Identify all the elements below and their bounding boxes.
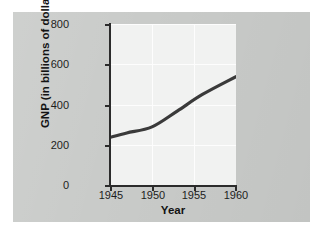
y-tick-label-0: 0	[35, 180, 69, 191]
y-tick-0	[105, 185, 109, 187]
figure-root: 800 600 400 200 0 1945 1950 1955 1960 GN…	[0, 0, 327, 238]
y-tick-label-200: 200	[35, 140, 69, 151]
x-axis-title: Year	[109, 204, 237, 216]
x-tick-label-1945: 1945	[91, 190, 131, 201]
gnp-series-line	[110, 24, 236, 186]
x-tick-label-1950: 1950	[133, 190, 173, 201]
x-tick-label-1960: 1960	[216, 190, 256, 201]
y-axis-line	[109, 23, 111, 187]
plot-area	[110, 24, 236, 186]
y-tick-800	[105, 24, 109, 26]
y-tick-600	[105, 64, 109, 66]
y-tick-200	[105, 145, 109, 147]
x-axis-line	[109, 185, 237, 187]
x-tick-label-1955: 1955	[174, 190, 214, 201]
y-axis-title: GNP (in billions of dollars)	[39, 0, 51, 134]
y-tick-400	[105, 105, 109, 107]
chart-card: 800 600 400 200 0 1945 1950 1955 1960 GN…	[13, 12, 310, 222]
